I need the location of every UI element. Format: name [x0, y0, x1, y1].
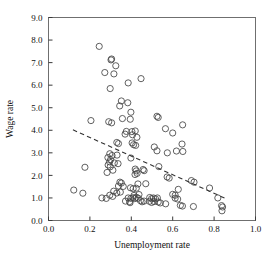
- x-tick-label: 0.0: [43, 224, 55, 234]
- y-tick-label: 5.0: [31, 103, 43, 113]
- y-tick-label: 3.0: [31, 148, 43, 158]
- y-tick-label: 7.0: [31, 58, 43, 68]
- scatter-plot-figure: 0.00.20.40.60.81.0 0.01.02.03.04.05.06.0…: [0, 0, 269, 265]
- y-tick-label: 8.0: [31, 35, 43, 45]
- chart-canvas: 0.00.20.40.60.81.0 0.01.02.03.04.05.06.0…: [0, 0, 269, 265]
- y-tick-label: 4.0: [31, 125, 43, 135]
- x-tick-label: 0.8: [208, 224, 220, 234]
- y-tick-label: 6.0: [31, 80, 43, 90]
- x-tick-label: 0.6: [167, 224, 179, 234]
- x-axis-title: Unemployment rate: [114, 240, 190, 250]
- x-tick-label: 0.4: [126, 224, 138, 234]
- y-tick-label: 1.0: [31, 193, 43, 203]
- x-tick-label: 0.2: [84, 224, 95, 234]
- y-tick-label: 9.0: [31, 13, 43, 23]
- x-tick-label: 1.0: [250, 224, 262, 234]
- y-axis-title: Wage rate: [5, 100, 15, 138]
- y-tick-label: 2.0: [31, 171, 43, 181]
- y-tick-label: 0.0: [31, 216, 43, 226]
